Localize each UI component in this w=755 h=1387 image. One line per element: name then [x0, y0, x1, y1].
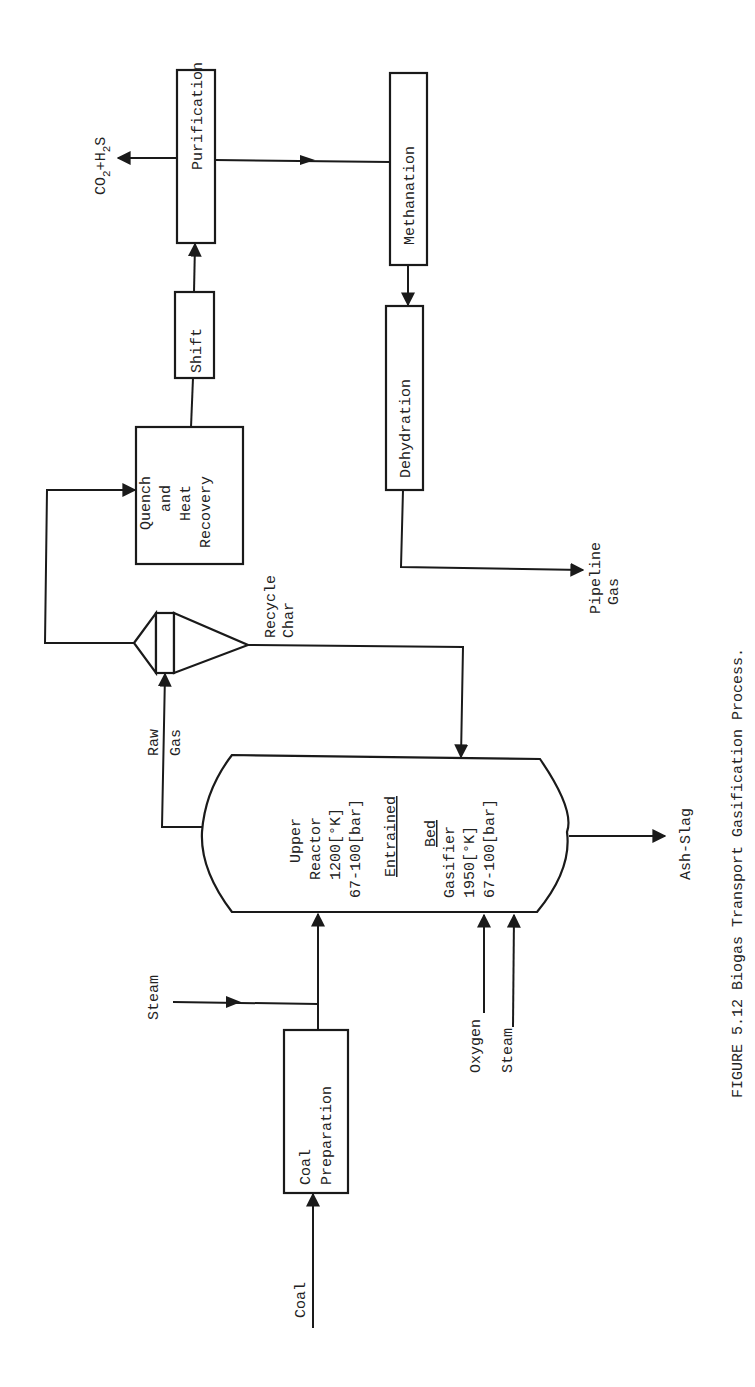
- ash-slag-label: Ash-Slag: [678, 808, 695, 880]
- co2-h2s-label: CO2+H2S: [93, 137, 113, 195]
- purification-label: Purification: [190, 62, 207, 170]
- dehydration-label: Dehydration: [398, 379, 415, 478]
- shift-label: Shift: [189, 328, 206, 373]
- steam-feed-line: [173, 1002, 318, 1004]
- coal-label: Coal: [293, 1282, 310, 1318]
- recycle-char-label: Recycle Char: [263, 566, 298, 638]
- flow-arrow-icon: [226, 996, 241, 1008]
- recycle-char-line: [248, 645, 463, 757]
- entrained-label: Entrained: [383, 796, 400, 877]
- flow-arrow-icon: [300, 155, 315, 165]
- oxygen-label: Oxygen: [468, 1019, 485, 1073]
- steam-bottom-feed-line: [513, 915, 514, 1027]
- cyclone-separator: [134, 613, 248, 673]
- methanation-label: Methanation: [402, 146, 419, 245]
- bed-label: Bed: [423, 820, 440, 847]
- figure-caption: FIGURE 5.12 Biogas Transport Gasificatio…: [730, 648, 747, 1098]
- pipeline-gas-label: Pipeline Gas: [588, 533, 623, 614]
- process-flow-diagram: Purification CO2+H2S Methanation Dehydra…: [0, 0, 755, 1387]
- steam-top-label: Steam: [146, 975, 163, 1020]
- cyclone-to-quench-line: [45, 490, 135, 643]
- coal-preparation-box: [284, 1030, 348, 1193]
- steam-bottom-label: Steam: [500, 1028, 517, 1073]
- quench-to-shift-line: [191, 378, 193, 427]
- raw-gas-label: Raw Gas: [146, 720, 185, 756]
- shift-to-purification-line: [194, 244, 195, 292]
- dehydration-to-pipeline-line: [401, 490, 583, 570]
